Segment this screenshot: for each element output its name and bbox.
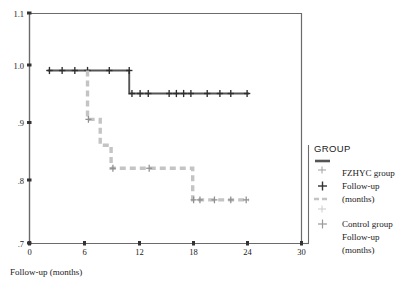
censor-mark bbox=[197, 196, 203, 203]
censor-mark bbox=[166, 90, 172, 97]
legend-marker-plus-dark bbox=[318, 182, 327, 191]
y-tick-3 bbox=[27, 121, 32, 124]
y-tick-label: .9 bbox=[18, 118, 24, 128]
legend-label-fzhyc-months: (months) bbox=[342, 194, 375, 204]
censor-mark bbox=[59, 67, 65, 74]
censor-mark bbox=[126, 67, 132, 74]
legend-label-fzhyc-group: FZHYC group bbox=[342, 168, 395, 178]
censor-mark bbox=[217, 90, 223, 97]
legend-label-fzhyc-followup: Follow-up bbox=[342, 181, 380, 191]
censor-mark bbox=[228, 196, 234, 203]
x-axis-title: Follow-up (months) bbox=[10, 267, 82, 277]
censor-mark bbox=[145, 90, 151, 97]
legend-marker-plus-faint bbox=[318, 206, 326, 213]
censor-mark bbox=[228, 90, 234, 97]
x-tick-label: 12 bbox=[135, 247, 144, 257]
censor-mark bbox=[85, 116, 91, 123]
chart-container: 1.1 1.0 .9 .8 .7 0 6 12 18 24 30 Follow- bbox=[0, 0, 404, 283]
y-tick-label: 1.0 bbox=[13, 61, 24, 71]
legend-label-control-group: Control group bbox=[342, 219, 393, 229]
series-control bbox=[85, 71, 249, 204]
y-tick-label: .8 bbox=[18, 176, 24, 186]
censor-mark bbox=[204, 90, 210, 97]
censor-mark bbox=[137, 90, 143, 97]
legend-marker-plus-light bbox=[318, 167, 326, 174]
censor-mark bbox=[180, 90, 186, 97]
y-tick-2 bbox=[27, 64, 32, 67]
plot-axes bbox=[29, 13, 309, 244]
survival-curve-line bbox=[88, 71, 249, 200]
censor-mark bbox=[146, 165, 152, 172]
y-tick-label: .7 bbox=[18, 239, 24, 249]
legend-title: GROUP bbox=[314, 143, 351, 154]
censor-mark bbox=[173, 90, 179, 97]
censor-mark bbox=[110, 165, 116, 172]
x-tick-18 bbox=[192, 241, 195, 246]
x-tick-30 bbox=[300, 241, 303, 246]
censor-mark bbox=[188, 90, 194, 97]
x-tick-0 bbox=[28, 241, 31, 246]
x-tick-6 bbox=[83, 241, 86, 246]
x-tick-label: 18 bbox=[189, 247, 198, 257]
y-tick-label: 1.1 bbox=[13, 9, 24, 19]
legend-marker-plus-gray bbox=[318, 220, 327, 229]
series-layer bbox=[46, 67, 250, 203]
y-tick-labels: 1.1 1.0 .9 .8 .7 bbox=[13, 9, 24, 249]
legend-label-control-months: (months) bbox=[342, 245, 375, 255]
x-tick-label: 30 bbox=[297, 247, 306, 257]
censor-mark bbox=[244, 90, 250, 97]
y-tick-4 bbox=[27, 179, 32, 182]
x-tick-label: 24 bbox=[243, 247, 252, 257]
x-tick-12 bbox=[138, 241, 141, 246]
chart-legend: GROUP bbox=[314, 143, 395, 255]
censor-mark bbox=[211, 196, 217, 203]
legend-label-control-followup: Follow-up bbox=[342, 232, 380, 242]
censor-mark bbox=[46, 67, 52, 74]
series-fzhyc bbox=[46, 67, 250, 97]
x-tick-label: 6 bbox=[82, 247, 86, 257]
survival-chart-svg: 1.1 1.0 .9 .8 .7 0 6 12 18 24 30 Follow- bbox=[0, 0, 404, 283]
censor-mark bbox=[72, 67, 78, 74]
x-tick-labels: 0 6 12 18 24 30 bbox=[27, 247, 305, 257]
x-tick-24 bbox=[246, 241, 249, 246]
y-tick-1 bbox=[27, 12, 32, 15]
censor-mark bbox=[243, 196, 249, 203]
censor-mark bbox=[106, 67, 112, 74]
x-tick-label: 0 bbox=[27, 247, 31, 257]
